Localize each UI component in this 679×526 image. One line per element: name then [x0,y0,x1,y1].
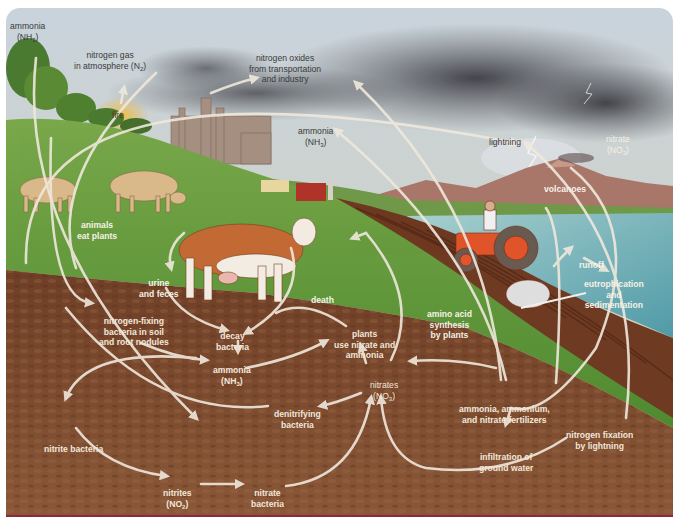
label-nitrogen-oxides: nitrogen oxides from transportation and … [249,53,321,85]
label-decay-bacteria: decay bacteria [216,331,249,352]
label-ammonia-sky-mid: ammonia (NH3) [298,126,333,147]
bottom-border [6,515,673,517]
label-urine-feces: urine and feces [139,278,179,299]
label-fire: fire [112,110,124,121]
label-fertilizers: ammonia, ammonium, and nitrate fertilize… [459,404,550,425]
label-nitrogen-fixation-lightning: nitrogen fixation by lightning [566,430,633,451]
label-nitrate-bacteria: nitrate bacteria [251,488,284,509]
label-animals-eat-plants: animals eat plants [77,220,117,241]
label-denitrifying-bacteria: denitrifying bacteria [274,409,321,430]
label-ammonia-soil: ammonia (NH3) [213,365,251,386]
label-lightning: lightning [489,137,521,148]
nitrogen-cycle-illustration: ammonia (NH3) nitrogen gas in atmosphere… [6,8,673,516]
label-nitrite-bacteria: nitrite bacteria [44,444,103,455]
label-eutrophication: eutrophication and sedimentation [584,279,644,311]
label-nitrites: nitrites (NO2) [163,488,192,509]
label-volcanoes: volcanoes [544,184,586,195]
label-death: death [311,295,334,306]
label-runoff: runoff [579,260,604,271]
label-amino-acid-synthesis: amino acid synthesis by plants [427,309,472,341]
label-nitrate-sky: nitrate (NO3) [606,134,630,155]
label-nitrogen-gas: nitrogen gas in atmosphere (N2) [74,50,146,71]
label-ammonia-sky-left: ammonia (NH3) [10,21,45,42]
label-plants-use-nitrate: plants use nitrate and ammonia [334,329,395,361]
label-nitrogen-fixing-bacteria: nitrogen-fixing bacteria in soil and roo… [99,316,169,348]
label-nitrates-soil: nitrates (NO3) [370,380,398,401]
label-infiltration: infiltration of ground water [479,452,533,473]
